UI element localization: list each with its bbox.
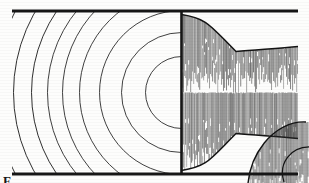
figure-container: F [0, 0, 309, 183]
figure-caption-partial: F [3, 174, 11, 183]
wavefront-horn-diagram [0, 0, 309, 183]
